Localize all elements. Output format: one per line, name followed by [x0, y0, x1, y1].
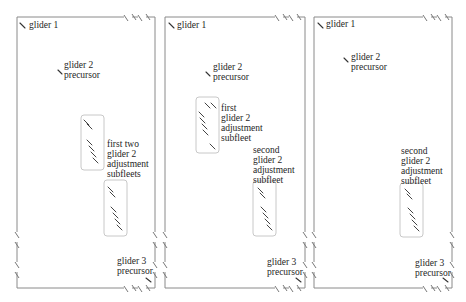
glider-3-precursor-icon	[296, 278, 301, 282]
subfleet-box-p1-b	[104, 180, 127, 236]
subfleet-box-p2-b	[253, 181, 276, 236]
label-glider-2-precursor: glider 2 precursor	[351, 52, 387, 72]
label-glider-3-precursor: glider 3 precursor	[415, 258, 451, 278]
glider-1-icon	[318, 23, 323, 28]
label-glider-3-precursor: glider 3 precursor	[267, 257, 303, 277]
label-first-subfleet: first glider 2 adjustment subfleet	[221, 103, 263, 143]
glider-1-icon	[20, 23, 25, 28]
label-glider-2-precursor: glider 2 precursor	[213, 62, 249, 82]
label-second-subfleet: second glider 2 adjustment subfleet	[401, 146, 443, 186]
label-glider-1: glider 1	[29, 20, 58, 30]
label-glider-2-precursor: glider 2 precursor	[64, 60, 100, 80]
subfleet-box-p1-a	[81, 115, 104, 170]
glider-2-precursor-icon	[344, 58, 348, 62]
label-second-subfleet: second glider 2 adjustment subfleet	[253, 145, 295, 185]
subfleet-box-p3	[400, 183, 423, 237]
label-glider-3-precursor: glider 3 precursor	[117, 256, 153, 276]
diagram-canvas	[0, 0, 466, 302]
label-glider-1: glider 1	[177, 20, 206, 30]
glider-2-precursor-icon	[206, 72, 210, 76]
label-glider-1: glider 1	[326, 19, 355, 29]
glider-2-precursor-icon	[58, 70, 62, 74]
label-subfleets: first two glider 2 adjustment subfleets	[107, 139, 149, 179]
glider-3-precursor-icon	[443, 278, 448, 282]
glider-1-icon	[169, 23, 174, 28]
glider-3-precursor-icon	[146, 278, 151, 282]
